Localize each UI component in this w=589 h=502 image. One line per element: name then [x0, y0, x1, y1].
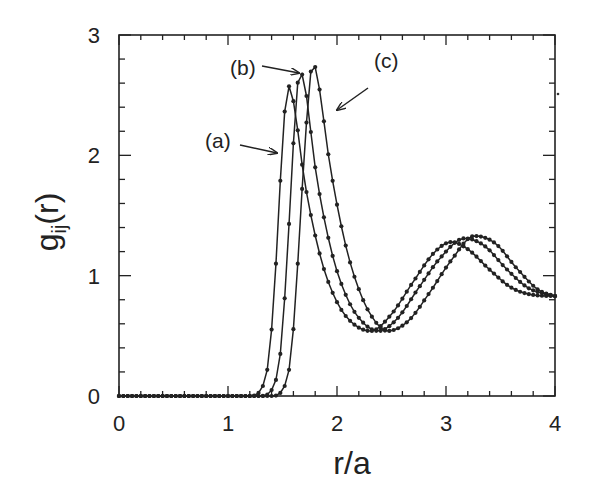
- data-point: [522, 275, 526, 279]
- stray-dot: [557, 93, 560, 96]
- svg-text:gij(r): gij(r): [29, 193, 70, 252]
- data-point: [147, 394, 151, 398]
- data-point: [274, 394, 278, 398]
- data-point: [348, 302, 352, 306]
- data-point: [230, 394, 234, 398]
- data-point: [457, 238, 461, 242]
- data-point: [287, 84, 291, 88]
- data-point: [143, 394, 147, 398]
- data-point: [531, 288, 535, 292]
- data-point: [178, 394, 182, 398]
- data-point: [422, 298, 426, 302]
- data-point: [479, 259, 483, 263]
- data-point: [496, 244, 500, 248]
- data-point: [265, 394, 269, 398]
- data-point: [322, 267, 326, 271]
- data-point: [191, 394, 195, 398]
- data-point: [409, 316, 413, 320]
- data-point: [222, 394, 226, 398]
- data-point: [387, 324, 391, 328]
- data-point: [130, 394, 134, 398]
- data-point: [431, 265, 435, 269]
- data-point: [553, 294, 557, 298]
- data-point: [313, 165, 317, 169]
- data-point: [126, 394, 130, 398]
- data-point: [317, 251, 321, 255]
- data-point: [274, 262, 278, 266]
- data-point: [405, 304, 409, 308]
- data-point: [165, 394, 169, 398]
- plot-frame: [119, 35, 555, 396]
- annotation-label: (c): [374, 49, 399, 72]
- data-point: [405, 290, 409, 294]
- data-point: [501, 263, 505, 267]
- data-point: [549, 293, 553, 297]
- data-point: [256, 394, 260, 398]
- data-point: [370, 315, 374, 319]
- data-point: [156, 394, 160, 398]
- data-point: [466, 247, 470, 251]
- data-point: [344, 314, 348, 318]
- data-point: [501, 249, 505, 253]
- data-point: [204, 394, 208, 398]
- data-point: [483, 236, 487, 240]
- data-point: [518, 290, 522, 294]
- series-annotations: (a)(b)(c): [205, 49, 399, 153]
- annotation-arrow-icon: [337, 88, 368, 110]
- data-point: [383, 329, 387, 333]
- data-point: [418, 305, 422, 309]
- data-point: [387, 329, 391, 333]
- data-point: [134, 394, 138, 398]
- data-point: [492, 240, 496, 244]
- data-point: [479, 235, 483, 239]
- data-point: [287, 368, 291, 372]
- data-point: [339, 224, 343, 228]
- data-point: [496, 275, 500, 279]
- data-point: [361, 298, 365, 302]
- data-point: [492, 271, 496, 275]
- data-point: [444, 241, 448, 245]
- data-point: [365, 307, 369, 311]
- data-point: [361, 321, 365, 325]
- x-tick-label: 2: [331, 411, 343, 436]
- data-point: [514, 276, 518, 280]
- data-point: [435, 279, 439, 283]
- x-axis-title: r/a: [333, 445, 371, 481]
- data-point: [326, 152, 330, 156]
- data-point: [352, 275, 356, 279]
- data-point: [418, 270, 422, 274]
- data-point: [457, 247, 461, 251]
- data-point: [357, 326, 361, 330]
- data-point: [304, 190, 308, 194]
- data-point: [161, 394, 165, 398]
- x-tick-label: 4: [549, 411, 561, 436]
- data-point: [291, 99, 295, 103]
- data-point: [527, 286, 531, 290]
- data-point: [457, 242, 461, 246]
- data-point: [344, 293, 348, 297]
- data-point: [409, 297, 413, 301]
- data-point: [274, 378, 278, 382]
- data-point: [348, 260, 352, 264]
- data-point: [501, 279, 505, 283]
- rdf-chart: 012340123 (a)(b)(c) r/a gij(r): [0, 0, 589, 502]
- data-point: [470, 234, 474, 238]
- data-point: [492, 253, 496, 257]
- data-point: [374, 329, 378, 333]
- data-point: [152, 394, 156, 398]
- data-point: [448, 259, 452, 263]
- data-point: [440, 244, 444, 248]
- data-point: [296, 81, 300, 85]
- data-point: [317, 87, 321, 91]
- data-point: [365, 325, 369, 329]
- data-point: [448, 240, 452, 244]
- data-point: [313, 233, 317, 237]
- data-point: [496, 258, 500, 262]
- data-point: [283, 109, 287, 113]
- data-point: [488, 238, 492, 242]
- data-point: [317, 192, 321, 196]
- data-point: [226, 394, 230, 398]
- axis-tick-labels: 012340123: [88, 23, 561, 436]
- data-point: [139, 394, 143, 398]
- data-point: [518, 280, 522, 284]
